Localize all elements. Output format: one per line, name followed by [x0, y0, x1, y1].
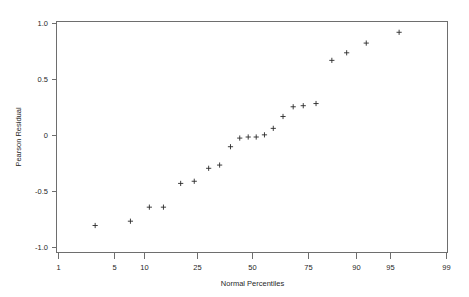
y-tick-label: 0 — [44, 131, 48, 140]
y-axis-title: Pearson Residual — [14, 107, 23, 167]
x-axis-title: Normal Percentiles — [221, 279, 285, 288]
x-tick-label: 99 — [442, 263, 450, 272]
x-tick-label: 90 — [352, 263, 360, 272]
chart-canvas: 1.0 0.5 0 -0.5 -1.0 Pearson Residual — [0, 0, 469, 297]
y-tick-label: -0.5 — [35, 187, 48, 196]
x-tick-label: 1 — [56, 263, 60, 272]
x-tick-label: 25 — [193, 263, 201, 272]
y-tick-label: 1.0 — [38, 19, 48, 28]
x-tick-label: 5 — [112, 263, 116, 272]
x-tick-label: 10 — [140, 263, 148, 272]
normal-probability-plot-figure: 1.0 0.5 0 -0.5 -1.0 Pearson Residual — [0, 0, 469, 297]
y-tick-label: -1.0 — [35, 243, 48, 252]
x-tick-label: 95 — [386, 263, 394, 272]
y-tick-label: 0.5 — [38, 75, 48, 84]
x-tick-label: 75 — [304, 263, 312, 272]
x-tick-label: 50 — [248, 263, 256, 272]
